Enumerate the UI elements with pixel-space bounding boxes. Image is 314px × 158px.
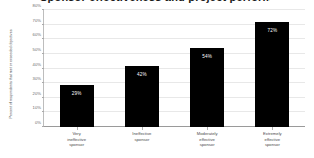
x-tick-mark bbox=[142, 127, 143, 130]
gridline: 80% bbox=[44, 9, 305, 10]
x-tick-mark bbox=[207, 127, 208, 130]
bar-chart: Sponsor effectiveness and project perfor… bbox=[0, 0, 314, 158]
y-tick-mark bbox=[42, 82, 44, 83]
plot-area: 0%10%20%30%40%50%60%70%80% 29%42%54%72% bbox=[44, 10, 305, 127]
chart-title: Sponsor effectiveness and project perfor… bbox=[40, 0, 270, 3]
x-axis-category-label: Extremelyeffectivesponsor bbox=[240, 131, 305, 148]
y-tick-label: 0% bbox=[35, 120, 41, 125]
bar[interactable]: 54% bbox=[190, 48, 224, 127]
y-tick-mark bbox=[42, 24, 44, 25]
y-axis-line bbox=[43, 10, 44, 127]
bar[interactable]: 42% bbox=[125, 66, 159, 127]
x-tick-mark bbox=[272, 127, 273, 130]
bar-value-label: 54% bbox=[190, 54, 224, 59]
x-axis-category-line: sponsor bbox=[175, 142, 240, 148]
x-axis-category-label: Moderatelyeffectivesponsor bbox=[175, 131, 240, 148]
x-axis-category-label: Ineffectivesponsor bbox=[109, 131, 174, 142]
y-tick-label: 10% bbox=[33, 105, 41, 110]
x-axis-category-line: sponsor bbox=[109, 137, 174, 143]
y-tick-mark bbox=[42, 68, 44, 69]
y-tick-mark bbox=[42, 53, 44, 54]
y-tick-mark bbox=[42, 111, 44, 112]
x-axis-category-line: sponsor bbox=[44, 142, 109, 148]
bar[interactable]: 72% bbox=[255, 22, 289, 127]
x-axis-category-label: Veryineffectivesponsor bbox=[44, 131, 109, 148]
y-tick-label: 20% bbox=[33, 90, 41, 95]
bar[interactable]: 29% bbox=[60, 85, 94, 127]
y-tick-mark bbox=[42, 9, 44, 10]
y-tick-label: 70% bbox=[33, 17, 41, 22]
y-tick-mark bbox=[42, 97, 44, 98]
y-tick-label: 40% bbox=[33, 61, 41, 66]
x-axis-category-line: sponsor bbox=[240, 142, 305, 148]
bar-value-label: 72% bbox=[255, 28, 289, 33]
y-tick-label: 30% bbox=[33, 76, 41, 81]
bar-value-label: 29% bbox=[60, 91, 94, 96]
y-axis-title: Percent of respondents that met or excee… bbox=[9, 22, 20, 126]
x-tick-mark bbox=[77, 127, 78, 130]
y-tick-label: 80% bbox=[33, 3, 41, 8]
y-tick-label: 60% bbox=[33, 32, 41, 37]
y-tick-mark bbox=[42, 38, 44, 39]
bar-value-label: 42% bbox=[125, 72, 159, 77]
y-tick-label: 50% bbox=[33, 46, 41, 51]
y-tick-mark bbox=[42, 126, 44, 127]
